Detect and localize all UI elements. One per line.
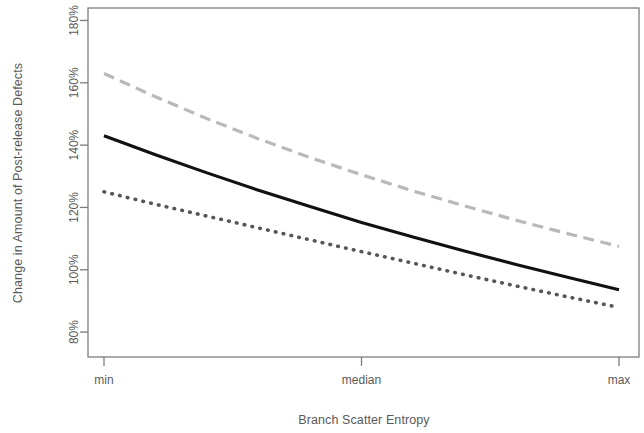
chart-canvas: 180%160%140%120%100%80% minmedianmax Cha… [0,0,644,433]
y-axis-title: Change in Amount of Post-release Defects [11,63,25,303]
series-group [104,73,619,307]
y-axis-ticks: 180%160%140%120%100%80% [67,5,88,344]
plot-frame [88,8,639,357]
y-tick-label: 80% [67,320,81,344]
series-estimate-line [104,136,619,290]
x-tick-label: max [608,373,631,387]
y-tick-label: 180% [67,5,81,36]
y-tick-label: 120% [67,192,81,223]
x-tick-label: min [94,373,113,387]
x-axis-ticks: minmedianmax [94,357,630,387]
y-tick-label: 160% [67,67,81,98]
effect-plot-figure: 180%160%140%120%100%80% minmedianmax Cha… [0,0,644,433]
y-tick-label: 140% [67,129,81,160]
y-tick-label: 100% [67,254,81,285]
x-tick-label: median [342,373,381,387]
series-lower-bound-line [104,192,619,308]
x-axis-title: Branch Scatter Entropy [298,413,430,427]
series-upper-bound-line [104,73,619,246]
